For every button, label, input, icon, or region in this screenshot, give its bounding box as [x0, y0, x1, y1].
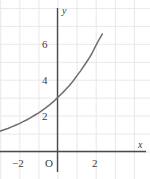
ytick-label-6: 6	[42, 39, 48, 50]
y-axis-label: y	[62, 6, 66, 16]
origin-label: O	[45, 158, 53, 169]
exponential-curve	[0, 34, 102, 131]
ytick-label-4: 4	[42, 75, 48, 86]
coordinate-plane	[0, 0, 150, 179]
x-axis-label: x	[138, 140, 142, 150]
horizontal-gridlines	[0, 8, 150, 152]
xtick-label-neg2: −2	[12, 158, 24, 169]
xtick-label-2: 2	[92, 158, 98, 169]
graph-figure: · 6 4 2 −2 O 2 y x	[0, 0, 150, 179]
ytick-label-2: 2	[42, 111, 48, 122]
